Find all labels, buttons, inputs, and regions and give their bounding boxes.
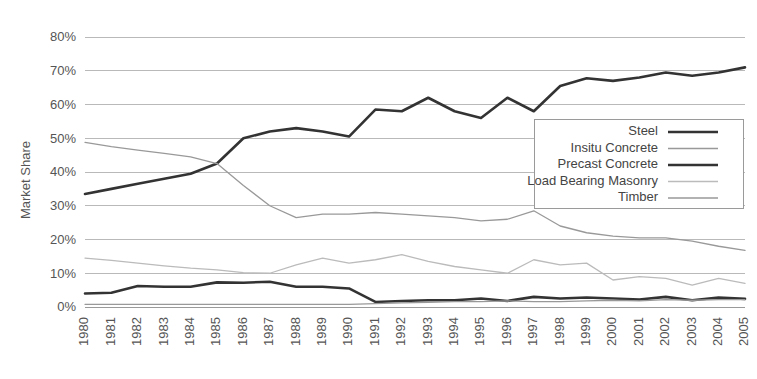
legend-label-load-bearing-masonry: Load Bearing Masonry bbox=[527, 173, 658, 188]
x-tick-label: 1986 bbox=[235, 317, 250, 346]
x-tick-label: 1981 bbox=[103, 317, 118, 346]
x-tick-label: 2004 bbox=[710, 317, 725, 346]
y-tick-label: 70% bbox=[50, 63, 76, 78]
y-tick-label: 80% bbox=[50, 29, 76, 44]
chart-legend: SteelInsitu ConcretePrecast ConcreteLoad… bbox=[527, 119, 743, 208]
x-tick-label: 1982 bbox=[129, 317, 144, 346]
x-tick-label: 1993 bbox=[420, 317, 435, 346]
x-tick-label: 1997 bbox=[525, 317, 540, 346]
market-share-line-chart: 0%10%20%30%40%50%60%70%80% 1980198119821… bbox=[0, 0, 757, 379]
x-tick-label: 1998 bbox=[552, 317, 567, 346]
x-tick-label: 1991 bbox=[367, 317, 382, 346]
chart-canvas: 0%10%20%30%40%50%60%70%80% 1980198119821… bbox=[0, 0, 757, 379]
y-tick-label: 50% bbox=[50, 131, 76, 146]
x-tick-label: 1999 bbox=[578, 317, 593, 346]
y-tick-label: 20% bbox=[50, 232, 76, 247]
x-tick-label: 1984 bbox=[182, 317, 197, 346]
x-tick-label: 1987 bbox=[261, 317, 276, 346]
y-tick-label: 0% bbox=[57, 299, 76, 314]
legend-label-precast-concrete: Precast Concrete bbox=[558, 156, 658, 171]
x-tick-label: 2003 bbox=[684, 317, 699, 346]
y-axis-title: Market Share bbox=[18, 141, 33, 219]
x-tick-label: 1994 bbox=[446, 317, 461, 346]
x-tick-label: 2001 bbox=[631, 317, 646, 346]
x-tick-label: 1989 bbox=[314, 317, 329, 346]
x-tick-label: 1985 bbox=[208, 317, 223, 346]
x-axis-tick-labels: 1980198119821983198419851986198719881989… bbox=[76, 317, 751, 346]
x-tick-label: 2000 bbox=[604, 317, 619, 346]
y-tick-label: 10% bbox=[50, 266, 76, 281]
y-axis-tick-labels: 0%10%20%30%40%50%60%70%80% bbox=[50, 29, 76, 314]
x-tick-label: 1996 bbox=[499, 317, 514, 346]
x-tick-label: 1995 bbox=[472, 317, 487, 346]
legend-label-steel: Steel bbox=[628, 123, 658, 138]
x-tick-label: 1983 bbox=[156, 317, 171, 346]
x-tick-label: 2002 bbox=[657, 317, 672, 346]
x-tick-label: 1992 bbox=[393, 317, 408, 346]
legend-label-insitu-concrete: Insitu Concrete bbox=[571, 140, 658, 155]
x-tick-label: 2005 bbox=[736, 317, 751, 346]
y-tick-label: 40% bbox=[50, 164, 76, 179]
y-tick-label: 60% bbox=[50, 97, 76, 112]
series-line-precast-concrete bbox=[85, 282, 745, 302]
y-tick-label: 30% bbox=[50, 198, 76, 213]
x-tick-label: 1988 bbox=[288, 317, 303, 346]
legend-label-timber: Timber bbox=[618, 189, 659, 204]
x-tick-label: 1990 bbox=[340, 317, 355, 346]
series-line-load-bearing-masonry bbox=[85, 255, 745, 285]
x-tick-label: 1980 bbox=[76, 317, 91, 346]
